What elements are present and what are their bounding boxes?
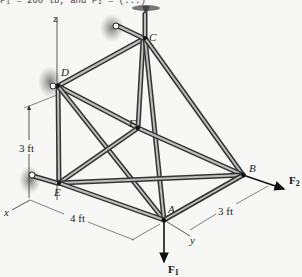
force-f1: F1 <box>164 220 179 277</box>
joint-label-e: E <box>53 186 61 198</box>
truss-members <box>33 14 243 220</box>
member-df <box>58 86 138 128</box>
joint-label-c: C <box>149 31 157 43</box>
member-de <box>58 86 59 183</box>
z-axis-label: z <box>53 12 58 24</box>
joint-label-d: D <box>60 66 69 78</box>
x-axis: x <box>3 95 57 218</box>
dimension-y-span-label: 3 ft <box>218 205 233 217</box>
support-ball-e <box>29 172 35 178</box>
joint-label-a: A <box>167 203 175 215</box>
member-dc <box>58 38 145 86</box>
space-truss-diagram: F₁ = 200 lb, and F₂ = (...) z x y 3 ft 4… <box>0 0 302 277</box>
force-f2: F2 <box>243 174 300 189</box>
member-ca <box>145 38 164 220</box>
support-ball-c <box>113 23 119 29</box>
force-f1-label: F1 <box>168 263 179 277</box>
dimension-vertical-label: 3 ft <box>19 142 34 154</box>
joint-label-b: B <box>249 162 256 174</box>
y-axis: y <box>164 220 195 246</box>
joint-label-f: F <box>128 117 136 129</box>
cut-off-text: F₁ = 200 lb, and F₂ = (...) <box>0 0 146 6</box>
dimension-x-span-label: 4 ft <box>70 212 85 224</box>
dimension-x-span: 4 ft <box>30 200 160 240</box>
dimension-y-span: 3 ft <box>190 186 268 230</box>
member-cf <box>138 40 143 128</box>
support-shadow-e <box>19 166 41 194</box>
support-ball-d <box>50 83 56 89</box>
support-c-top <box>132 5 160 13</box>
force-f2-label: F2 <box>289 174 300 188</box>
y-axis-label: y <box>189 234 195 246</box>
member-eb <box>59 175 243 183</box>
x-axis-label: x <box>3 206 9 218</box>
